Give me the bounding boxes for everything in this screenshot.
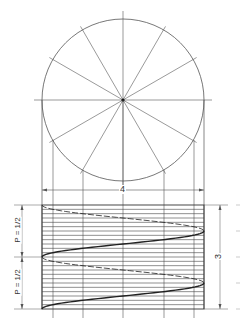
height-dimension-label: 3: [214, 253, 223, 260]
radial-division-line: [81, 26, 124, 100]
width-dimension-label: 4: [119, 185, 126, 194]
helix-diagram-canvas: [0, 0, 243, 322]
pitch-label-upper: P = 1/2: [14, 216, 22, 243]
radial-division-line: [49, 100, 123, 143]
radial-division-line: [123, 26, 166, 100]
radial-division-line: [123, 100, 166, 174]
radial-division-line: [81, 100, 124, 174]
helix-drawing: 4 3 P = 1/2 P = 1/2: [0, 0, 243, 322]
pitch-label-lower: P = 1/2: [14, 268, 22, 295]
radial-division-line: [123, 100, 197, 143]
radial-division-line: [49, 58, 123, 101]
radial-division-line: [123, 58, 197, 101]
